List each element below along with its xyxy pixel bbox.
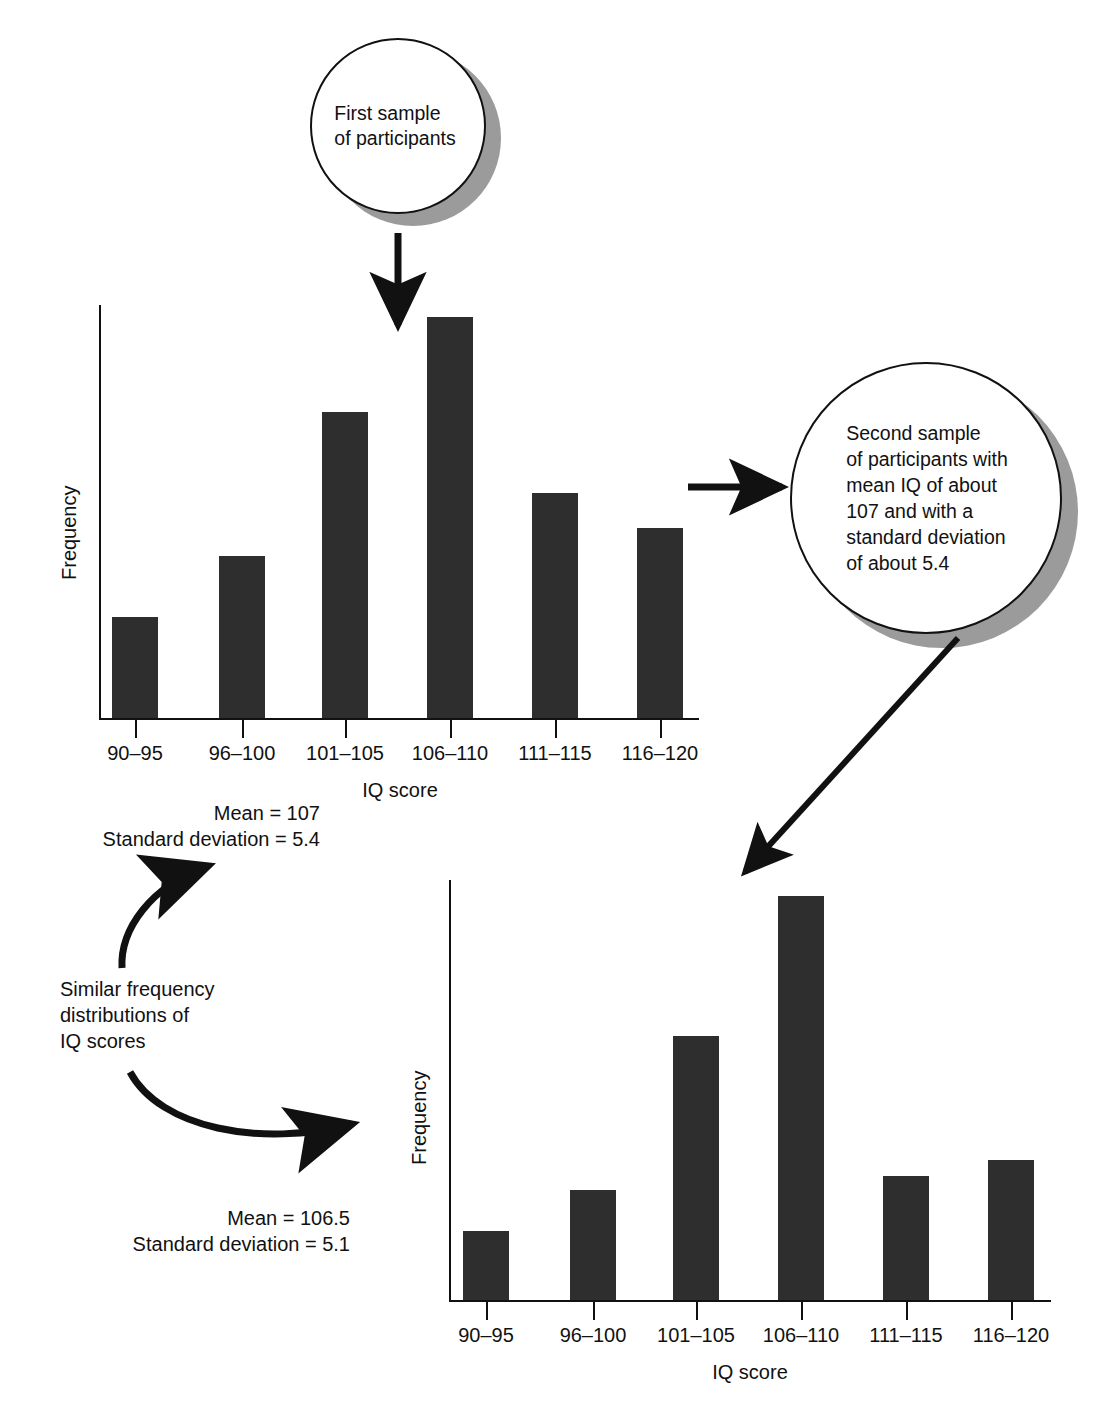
chart-bottom-tick-6: [1011, 1302, 1013, 1320]
chart-bottom-xtick-label-5: 111–115: [853, 1324, 959, 1347]
chart-bottom-tick-4: [801, 1302, 803, 1320]
chart-bottom-bar-1: [463, 1231, 509, 1300]
second-sample-callout: Second sample of participants with mean …: [790, 362, 1062, 634]
chart-bottom-y-axis: [449, 880, 451, 1302]
chart-bottom-tick-5: [906, 1302, 908, 1320]
chart-bottom-xtick-label-4: 106–110: [748, 1324, 854, 1347]
chart-bottom-y-axis-label: Frequency: [408, 1071, 431, 1166]
second-sample-callout-text: Second sample of participants with mean …: [846, 420, 1008, 576]
chart-bottom-xtick-label-6: 116–120: [958, 1324, 1064, 1347]
chart-bottom-bar-3: [673, 1036, 719, 1300]
chart-bottom-tick-1: [486, 1302, 488, 1320]
chart-bottom-x-axis: [449, 1300, 1051, 1302]
first-sample-callout: First sample of participants: [310, 38, 486, 214]
chart-bottom-bar-4: [778, 896, 824, 1300]
first-sample-callout-text: First sample of participants: [334, 101, 455, 151]
chart-bottom-bar-6: [988, 1160, 1034, 1300]
figure-canvas: First sample of participants Second samp…: [0, 0, 1115, 1417]
similar-distributions-note: Similar frequency distributions of IQ sc…: [60, 976, 340, 1054]
top-stats-note: Mean = 107 Standard deviation = 5.4: [30, 800, 320, 852]
chart-bottom-xtick-label-1: 90–95: [436, 1324, 536, 1347]
chart-bottom-bar-5: [883, 1176, 929, 1300]
chart-bottom-tick-2: [593, 1302, 595, 1320]
chart-bottom-xtick-label-2: 96–100: [543, 1324, 643, 1347]
chart-bottom-xtick-label-3: 101–105: [643, 1324, 749, 1347]
chart-bottom-bar-2: [570, 1190, 616, 1300]
chart-bottom-x-axis-label: IQ score: [690, 1361, 810, 1384]
chart-bottom-tick-3: [696, 1302, 698, 1320]
bottom-stats-note: Mean = 106.5 Standard deviation = 5.1: [30, 1205, 350, 1257]
